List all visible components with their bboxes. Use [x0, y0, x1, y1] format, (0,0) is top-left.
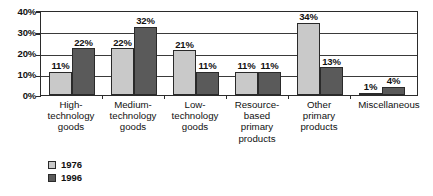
- category-label: High- technology goods: [40, 99, 102, 133]
- y-tick-label: 30%: [0, 28, 36, 37]
- plot-area: 11% 22% 22% 32% 21% 11% 11% 11% 34% 13%: [40, 11, 418, 96]
- bar-value-label: 22%: [67, 38, 100, 48]
- legend-swatch-icon: [48, 174, 56, 182]
- bar-value-label: 21%: [168, 40, 201, 50]
- bar-1996: [134, 27, 157, 95]
- bar-1976: [173, 50, 196, 95]
- legend-item-1996: 1996: [48, 171, 82, 184]
- bar-1996: [258, 72, 281, 95]
- bar-value-label: 4%: [377, 76, 410, 86]
- legend: 1976 1996: [48, 158, 82, 184]
- bar-value-label: 34%: [292, 12, 325, 22]
- bar-1996: [320, 67, 343, 95]
- category-label: Resource- based primary products: [226, 99, 288, 144]
- legend-item-1976: 1976: [48, 158, 82, 171]
- bar-group: 1% 4%: [351, 12, 412, 95]
- bar-1996: [382, 87, 405, 96]
- bar-value-label: 11%: [253, 61, 286, 71]
- bar-value-label: 13%: [315, 57, 348, 67]
- category-label: Medium- technology goods: [102, 99, 164, 133]
- bar-chart: 40% 30% 20% 10% 0% 11% 22% 22% 32%: [0, 0, 433, 196]
- y-tick-label: 10%: [0, 70, 36, 79]
- bar-group: 11% 11%: [227, 12, 288, 95]
- category-label: Low- technology goods: [164, 99, 226, 133]
- bar-1976: [359, 93, 382, 95]
- bar-group: 34% 13%: [289, 12, 350, 95]
- legend-swatch-icon: [48, 161, 56, 169]
- bar-value-label: 32%: [129, 16, 162, 26]
- bar-1996: [72, 48, 95, 95]
- category-label: Miscellaneous: [346, 99, 432, 110]
- bar-1976: [235, 72, 258, 95]
- bar-1996: [196, 72, 219, 95]
- legend-label: 1996: [61, 173, 82, 183]
- category-label: Other primary products: [288, 99, 350, 133]
- bar-value-label: 11%: [191, 61, 224, 71]
- y-axis: 40% 30% 20% 10% 0%: [0, 0, 36, 196]
- bar-group: 11% 22%: [41, 12, 102, 95]
- y-axis-tick: [36, 96, 41, 97]
- x-axis: High- technology goods Medium- technolog…: [40, 99, 433, 159]
- y-tick-label: 20%: [0, 49, 36, 58]
- bar-1976: [49, 72, 72, 95]
- y-tick-label: 40%: [0, 7, 36, 16]
- bar-group: 22% 32%: [103, 12, 164, 95]
- y-tick-label: 0%: [0, 91, 36, 100]
- bar-1976: [111, 48, 134, 95]
- bar-group: 21% 11%: [165, 12, 226, 95]
- legend-label: 1976: [61, 160, 82, 170]
